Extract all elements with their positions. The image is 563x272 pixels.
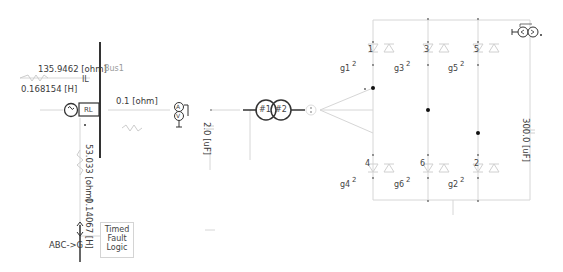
line-resistance-label: 0.1 [ohm]: [116, 96, 158, 106]
transformer-winding1-label: #1: [259, 105, 271, 114]
thyristor-3-number: 3: [424, 45, 429, 54]
thyristor-6-number: 6: [420, 159, 425, 168]
rl-block-label: RL: [84, 106, 93, 114]
transformer-winding2-label: #2: [275, 105, 287, 114]
thyristor-5-gate-sub: 2: [460, 60, 464, 68]
dc-voltmeter-icon: [528, 27, 538, 37]
thyristor-4-gate-sub: 2: [352, 176, 356, 184]
thyristor-4-gate: g4: [340, 180, 350, 189]
thyristor-6-gate: g6: [394, 180, 404, 189]
timed-fault-logic-block[interactable]: Timed Fault Logic: [100, 222, 134, 258]
thyristor-6-gate-sub: 2: [406, 176, 410, 184]
ac-capacitor-label: 2.0 [uF]: [202, 122, 212, 155]
fault-inductance-label: 0.14067 [H]: [84, 198, 94, 249]
thyristor-1-number: 1: [368, 45, 373, 54]
fault-type-label: ABC->G: [49, 240, 83, 250]
thyristor-3-gate: g3: [394, 64, 404, 73]
thyristor-1-gate-sub: 2: [352, 60, 356, 68]
dc-ammeter-icon: [518, 27, 528, 37]
bus-label: Bus1: [104, 64, 124, 73]
current-label: IL: [82, 75, 89, 84]
series-resistance-label: 135.9462 [ohm]: [38, 64, 107, 74]
thyristor-2-gate: g2: [448, 180, 458, 189]
thyristor-2-number: 2: [474, 159, 479, 168]
ammeter-label: A: [176, 103, 180, 110]
thyristor-3-gate-sub: 2: [406, 60, 410, 68]
voltmeter-label: V: [176, 112, 180, 119]
thyristor-5-gate: g5: [448, 64, 458, 73]
thyristor-1-gate: g1: [340, 64, 350, 73]
ac-source-icon: [65, 104, 78, 117]
fault-resistance-label: 53.033 [ohm]: [84, 144, 94, 202]
series-inductance-label: 0.168154 [H]: [21, 84, 77, 94]
thyristor-5-number: 5: [474, 45, 479, 54]
thyristor-4-number: 4: [365, 159, 370, 168]
thyristor-2-gate-sub: 2: [460, 176, 464, 184]
dc-capacitor-label: 300.0 [uF]: [521, 118, 531, 162]
